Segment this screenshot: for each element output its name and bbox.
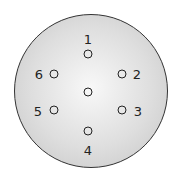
pin-center <box>84 88 93 97</box>
pin-label: 3 <box>134 105 142 118</box>
pin-label: 1 <box>84 33 92 46</box>
pin-6 <box>50 70 59 79</box>
pin-2 <box>118 70 127 79</box>
pin-5 <box>50 106 59 115</box>
pin-label: 5 <box>34 105 42 118</box>
pin-3 <box>118 106 127 115</box>
pin-label: 2 <box>133 68 141 81</box>
pin-4 <box>84 127 93 136</box>
pin-label: 4 <box>84 144 92 157</box>
pin-label: 6 <box>35 68 43 81</box>
pin-1 <box>84 50 93 59</box>
